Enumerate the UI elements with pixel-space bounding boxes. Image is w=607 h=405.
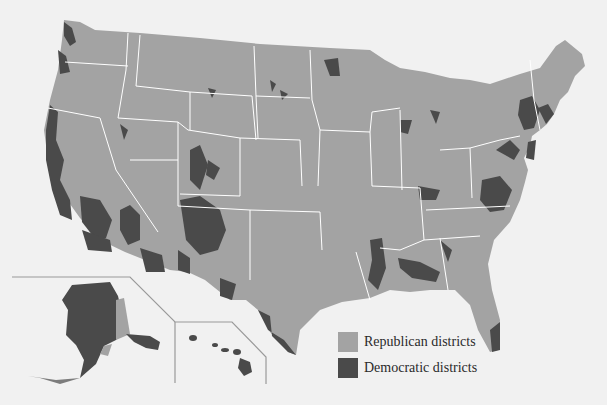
- us-district-map: [0, 0, 607, 405]
- legend-item-democratic: Democratic districts: [338, 356, 477, 380]
- alaska: [28, 282, 160, 384]
- legend: Republican districts Democratic district…: [338, 330, 477, 382]
- legend-label: Democratic districts: [364, 360, 477, 376]
- legend-item-republican: Republican districts: [338, 330, 477, 354]
- hawaii: [189, 335, 252, 376]
- republican-swatch: [338, 332, 358, 352]
- democratic-swatch: [338, 358, 358, 378]
- legend-label: Republican districts: [364, 334, 476, 350]
